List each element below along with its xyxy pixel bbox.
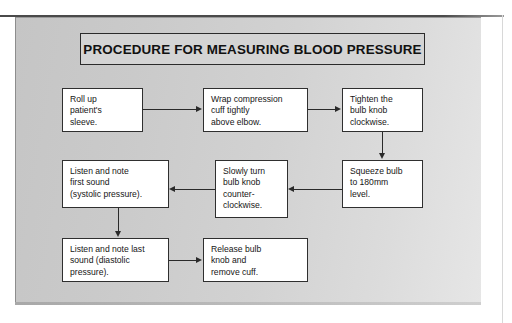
node-line: level. xyxy=(350,189,422,200)
node-line: clockwise. xyxy=(223,200,287,211)
node-line: Slowly turn xyxy=(223,166,287,177)
node-line: sleeve. xyxy=(70,117,142,128)
arrowhead-roll-up-to-wrap xyxy=(196,106,202,112)
node-line: cuff tightly xyxy=(211,105,307,116)
page-right-margin-rule xyxy=(502,15,503,323)
node-line: clockwise. xyxy=(350,117,422,128)
node-line: Listen and note xyxy=(70,166,168,177)
node-line: bulb knob xyxy=(350,105,422,116)
node-line: knob and xyxy=(211,255,307,266)
node-slowly-turn-knob: Slowly turn bulb knob counter- clockwise… xyxy=(215,160,288,218)
connector-roll-up-to-wrap xyxy=(143,109,197,110)
node-line: Release bulb xyxy=(211,244,307,255)
node-line: Tighten the xyxy=(350,94,422,105)
node-line: sound (diastolic xyxy=(70,255,168,266)
connector-wrap-to-tighten xyxy=(308,109,336,110)
connector-first-sound-to-last-sound xyxy=(118,208,119,232)
arrowhead-squeeze-to-slowly-turn xyxy=(288,186,294,192)
node-line: (systolic pressure). xyxy=(70,189,168,200)
node-line: bulb knob xyxy=(223,177,287,188)
node-line: above elbow. xyxy=(211,117,307,128)
arrowhead-tighten-to-squeeze xyxy=(379,153,385,159)
node-line: Roll up xyxy=(70,94,142,105)
connector-last-sound-to-release xyxy=(169,260,197,261)
connector-squeeze-to-slowly-turn xyxy=(294,189,342,190)
arrowhead-first-sound-to-last-sound xyxy=(115,231,121,237)
node-line: Squeeze bulb xyxy=(350,166,422,177)
node-squeeze-bulb: Squeeze bulb to 180mm level. xyxy=(342,160,423,208)
node-roll-up-sleeve: Roll up patient's sleeve. xyxy=(62,88,143,132)
figure-title: PROCEDURE FOR MEASURING BLOOD PRESSURE xyxy=(83,42,421,57)
node-line: patient's xyxy=(70,105,142,116)
node-line: Listen and note last xyxy=(70,244,168,255)
arrowhead-last-sound-to-release xyxy=(196,257,202,263)
connector-tighten-to-squeeze xyxy=(382,132,383,154)
node-release-knob: Release bulb knob and remove cuff. xyxy=(203,238,308,282)
node-wrap-cuff: Wrap compression cuff tightly above elbo… xyxy=(203,88,308,132)
figure-title-box: PROCEDURE FOR MEASURING BLOOD PRESSURE xyxy=(80,33,425,65)
node-line: remove cuff. xyxy=(211,267,307,278)
node-last-sound: Listen and note last sound (diastolic pr… xyxy=(62,238,169,282)
arrowhead-slowly-turn-to-first-sound xyxy=(169,186,175,192)
node-tighten-knob: Tighten the bulb knob clockwise. xyxy=(342,88,423,132)
connector-slowly-turn-to-first-sound xyxy=(175,189,215,190)
node-line: first sound xyxy=(70,177,168,188)
node-line: Wrap compression xyxy=(211,94,307,105)
node-first-sound: Listen and note first sound (systolic pr… xyxy=(62,160,169,208)
node-line: counter- xyxy=(223,189,287,200)
flowchart-figure-panel: PROCEDURE FOR MEASURING BLOOD PRESSURE R… xyxy=(15,17,481,305)
arrowhead-wrap-to-tighten xyxy=(335,106,341,112)
node-line: pressure). xyxy=(70,267,168,278)
node-line: to 180mm xyxy=(350,177,422,188)
